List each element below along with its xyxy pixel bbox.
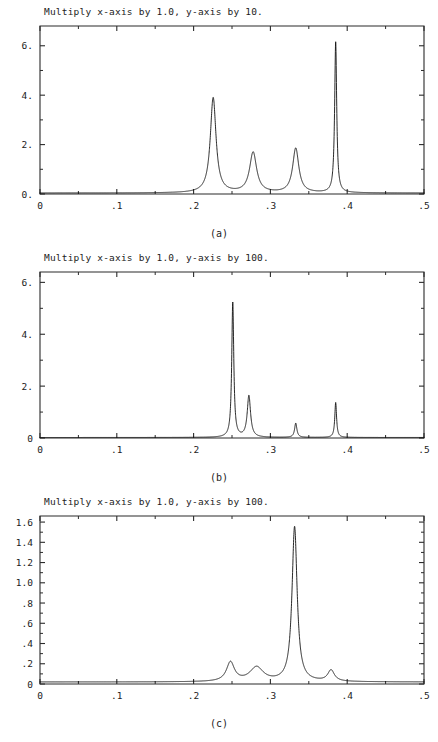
x-tick-label: .2 bbox=[188, 200, 199, 211]
x-tick-label: .4 bbox=[341, 444, 353, 455]
panel-b: Multiply x-axis by 1.0, y-axis by 100. 0… bbox=[0, 252, 438, 496]
panel-b-title: Multiply x-axis by 1.0, y-axis by 100. bbox=[44, 252, 269, 263]
spectrum-curve bbox=[40, 42, 424, 193]
y-tick-label: 1.6 bbox=[16, 517, 33, 528]
panel-c-title: Multiply x-axis by 1.0, y-axis by 100. bbox=[44, 496, 269, 507]
x-tick-label: .5 bbox=[418, 690, 429, 701]
x-tick-label: .2 bbox=[188, 690, 199, 701]
y-tick-label: 4. bbox=[22, 90, 33, 101]
x-tick-label: .1 bbox=[111, 690, 123, 701]
plot-frame bbox=[40, 26, 424, 194]
x-tick-label: .3 bbox=[265, 200, 276, 211]
y-tick-label: .2 bbox=[22, 658, 33, 669]
x-tick-label: 0 bbox=[37, 200, 43, 211]
y-tick-label: .4 bbox=[22, 638, 34, 649]
x-tick-label: .3 bbox=[265, 690, 276, 701]
panel-c: Multiply x-axis by 1.0, y-axis by 100. 0… bbox=[0, 496, 438, 742]
x-tick-label: 0 bbox=[37, 690, 43, 701]
panel-c-caption: (c) bbox=[0, 718, 438, 729]
panel-a: Multiply x-axis by 1.0, y-axis by 10. 0.… bbox=[0, 6, 438, 252]
spectrum-curve bbox=[40, 526, 424, 682]
y-tick-label: 2. bbox=[22, 139, 33, 150]
x-tick-label: .4 bbox=[341, 690, 353, 701]
panel-a-caption: (a) bbox=[0, 228, 438, 239]
y-tick-label: 6. bbox=[22, 277, 33, 288]
chart-b: 0.1.2.3.4.502.4.6. bbox=[0, 264, 438, 470]
y-tick-label: 0 bbox=[27, 433, 33, 444]
x-tick-label: .1 bbox=[111, 200, 123, 211]
y-tick-label: 1.4 bbox=[16, 537, 33, 548]
x-tick-label: 0 bbox=[37, 444, 43, 455]
x-tick-label: .5 bbox=[418, 444, 429, 455]
panel-a-title: Multiply x-axis by 1.0, y-axis by 10. bbox=[44, 6, 263, 17]
y-tick-label: 1.0 bbox=[16, 577, 33, 588]
y-tick-label: 2. bbox=[22, 381, 33, 392]
x-tick-label: .2 bbox=[188, 444, 199, 455]
y-tick-label: 4. bbox=[22, 329, 33, 340]
chart-c: 0.1.2.3.4.50.2.4.6.81.01.21.41.6 bbox=[0, 508, 438, 716]
figure-three-spectra: Multiply x-axis by 1.0, y-axis by 10. 0.… bbox=[0, 0, 438, 742]
y-tick-label: 6. bbox=[22, 40, 33, 51]
chart-a: 0.1.2.3.4.50.2.4.6. bbox=[0, 18, 438, 226]
plot-frame bbox=[40, 516, 424, 684]
x-tick-label: .1 bbox=[111, 444, 123, 455]
x-tick-label: .5 bbox=[418, 200, 429, 211]
panel-b-caption: (b) bbox=[0, 472, 438, 483]
spectrum-curve bbox=[40, 302, 424, 437]
y-tick-label: 1.2 bbox=[16, 557, 33, 568]
panel-b-plot: 0.1.2.3.4.502.4.6. bbox=[0, 264, 438, 470]
y-tick-label: .8 bbox=[22, 598, 34, 609]
y-tick-label: 0. bbox=[22, 189, 33, 200]
y-tick-label: .6 bbox=[22, 618, 34, 629]
panel-c-plot: 0.1.2.3.4.50.2.4.6.81.01.21.41.6 bbox=[0, 508, 438, 716]
panel-a-plot: 0.1.2.3.4.50.2.4.6. bbox=[0, 18, 438, 226]
y-tick-label: 0 bbox=[27, 679, 33, 690]
x-tick-label: .4 bbox=[341, 200, 353, 211]
x-tick-label: .3 bbox=[265, 444, 276, 455]
